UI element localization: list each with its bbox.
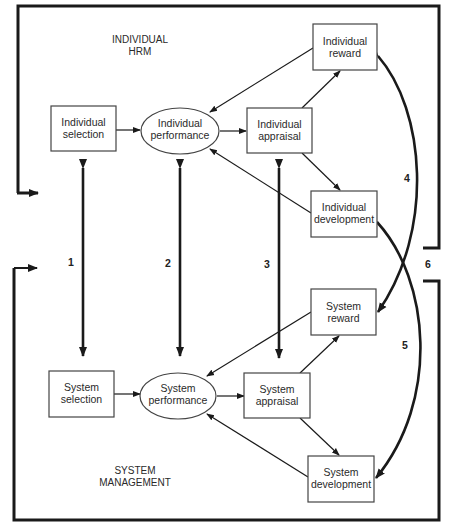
hrm-diagram: INDIVIDUAL HRM SYSTEM MANAGEMENT 1 2 3 4… [0, 0, 453, 530]
svg-text:Individual: Individual [61, 116, 105, 128]
svg-text:System: System [160, 382, 195, 394]
svg-text:System: System [323, 466, 358, 478]
link-4-reward [378, 56, 417, 312]
edge-ind-appraisal-reward [302, 71, 340, 108]
svg-text:appraisal: appraisal [258, 130, 301, 142]
section-label-individual-line1: INDIVIDUAL [112, 34, 169, 45]
svg-text:System: System [326, 300, 361, 312]
svg-text:selection: selection [63, 128, 105, 140]
node-individual-appraisal: Individual appraisal [247, 108, 312, 153]
edge-ind-development-performance [210, 149, 311, 213]
link-number-5: 5 [402, 339, 408, 351]
link-number-3: 3 [264, 258, 270, 270]
svg-text:Individual: Individual [257, 118, 301, 130]
svg-text:performance: performance [151, 129, 210, 141]
edge-sys-appraisal-development [300, 418, 339, 455]
svg-text:reward: reward [327, 312, 359, 324]
svg-text:selection: selection [61, 393, 103, 405]
svg-text:System: System [259, 383, 294, 395]
link-number-4: 4 [404, 172, 410, 184]
node-system-reward: System reward [311, 289, 376, 335]
node-system-appraisal: System appraisal [244, 373, 310, 418]
svg-text:appraisal: appraisal [256, 395, 299, 407]
section-label-system-line2: MANAGEMENT [99, 477, 171, 488]
link-number-1: 1 [68, 256, 74, 268]
node-individual-development: Individual development [311, 191, 377, 237]
node-individual-selection: Individual selection [51, 106, 116, 151]
edge-ind-reward-performance [210, 48, 313, 112]
link-5-development [376, 222, 420, 478]
section-label-system-line1: SYSTEM [114, 465, 155, 476]
section-label-individual-line2: HRM [129, 46, 152, 57]
svg-text:Individual: Individual [158, 117, 202, 129]
edge-sys-appraisal-reward [300, 336, 339, 373]
link-number-6: 6 [425, 258, 431, 270]
node-individual-performance: Individual performance [141, 108, 219, 154]
edge-sys-development-performance [207, 414, 308, 477]
link-number-2: 2 [165, 257, 171, 269]
node-system-selection: System selection [49, 371, 114, 417]
svg-text:development: development [314, 213, 374, 225]
node-individual-reward: Individual reward [313, 24, 377, 70]
svg-text:Individual: Individual [322, 201, 366, 213]
svg-text:System: System [64, 381, 99, 393]
svg-text:reward: reward [329, 47, 361, 59]
edge-sys-reward-performance [207, 312, 311, 376]
node-system-performance: System performance [140, 373, 216, 419]
svg-text:Individual: Individual [323, 35, 367, 47]
node-system-development: System development [308, 456, 374, 502]
svg-text:performance: performance [149, 394, 208, 406]
edge-ind-appraisal-development [302, 153, 340, 190]
svg-text:development: development [311, 478, 371, 490]
